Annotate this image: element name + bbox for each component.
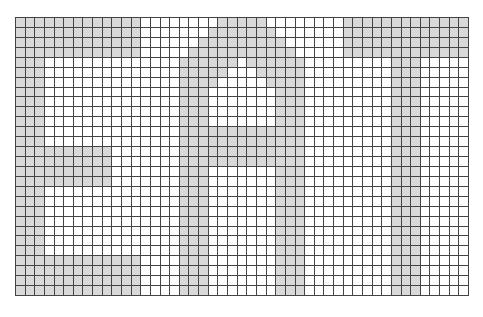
empty-cell (103, 227, 113, 237)
empty-cell (440, 58, 450, 68)
empty-cell (170, 117, 180, 127)
empty-cell (315, 207, 325, 217)
filled-cell-a (247, 48, 257, 58)
empty-cell (112, 117, 122, 127)
empty-cell (382, 217, 392, 227)
empty-cell (247, 177, 257, 187)
empty-cell (257, 97, 267, 107)
filled-cell-e (74, 167, 84, 177)
empty-cell (112, 97, 122, 107)
filled-cell-t (411, 97, 421, 107)
filled-cell-a (276, 217, 286, 227)
empty-cell (170, 88, 180, 98)
filled-cell-t (450, 48, 460, 58)
filled-cell-t (430, 28, 440, 38)
filled-cell-a (189, 286, 199, 296)
filled-cell-a (189, 167, 199, 177)
filled-cell-t (411, 58, 421, 68)
filled-cell-t (411, 217, 421, 227)
filled-cell-a (180, 177, 190, 187)
empty-cell (83, 68, 93, 78)
filled-cell-e (132, 18, 142, 28)
filled-cell-e (55, 28, 65, 38)
empty-cell (421, 127, 431, 137)
filled-cell-t (402, 28, 412, 38)
empty-cell (363, 78, 373, 88)
empty-cell (421, 256, 431, 266)
empty-cell (315, 236, 325, 246)
empty-cell (132, 157, 142, 167)
filled-cell-t (344, 38, 354, 48)
filled-cell-t (402, 157, 412, 167)
empty-cell (373, 236, 383, 246)
empty-cell (170, 68, 180, 78)
filled-cell-e (55, 276, 65, 286)
filled-cell-t (411, 256, 421, 266)
empty-cell (170, 187, 180, 197)
filled-cell-t (402, 58, 412, 68)
empty-cell (64, 137, 74, 147)
empty-cell (170, 107, 180, 117)
filled-cell-e (83, 48, 93, 58)
empty-cell (344, 266, 354, 276)
empty-cell (373, 177, 383, 187)
empty-cell (93, 127, 103, 137)
empty-cell (170, 246, 180, 256)
empty-cell (459, 107, 469, 117)
empty-cell (103, 117, 113, 127)
empty-cell (247, 107, 257, 117)
empty-cell (305, 187, 315, 197)
empty-cell (315, 246, 325, 256)
empty-cell (218, 207, 228, 217)
filled-cell-a (276, 256, 286, 266)
filled-cell-e (83, 18, 93, 28)
empty-cell (122, 177, 132, 187)
empty-cell (151, 137, 161, 147)
empty-cell (324, 88, 334, 98)
empty-cell (334, 207, 344, 217)
empty-cell (141, 107, 151, 117)
empty-cell (45, 217, 55, 227)
empty-cell (315, 18, 325, 28)
filled-cell-t (402, 117, 412, 127)
empty-cell (103, 137, 113, 147)
filled-cell-a (296, 97, 306, 107)
filled-cell-e (103, 28, 113, 38)
empty-cell (450, 58, 460, 68)
filled-cell-a (296, 266, 306, 276)
filled-cell-t (411, 187, 421, 197)
empty-cell (450, 197, 460, 207)
empty-cell (74, 227, 84, 237)
empty-cell (141, 38, 151, 48)
empty-cell (344, 88, 354, 98)
empty-cell (315, 266, 325, 276)
empty-cell (55, 127, 65, 137)
filled-cell-e (55, 266, 65, 276)
filled-cell-t (344, 28, 354, 38)
empty-cell (132, 137, 142, 147)
empty-cell (151, 197, 161, 207)
empty-cell (189, 18, 199, 28)
filled-cell-e (16, 187, 26, 197)
empty-cell (209, 236, 219, 246)
empty-cell (161, 187, 171, 197)
empty-cell (132, 236, 142, 246)
empty-cell (296, 38, 306, 48)
filled-cell-a (276, 68, 286, 78)
empty-cell (363, 217, 373, 227)
empty-cell (459, 78, 469, 88)
filled-cell-a (296, 177, 306, 187)
filled-cell-t (411, 227, 421, 237)
filled-cell-e (35, 147, 45, 157)
filled-cell-t (402, 227, 412, 237)
filled-cell-e (45, 256, 55, 266)
empty-cell (373, 207, 383, 217)
filled-cell-e (122, 28, 132, 38)
empty-cell (353, 207, 363, 217)
empty-cell (440, 147, 450, 157)
empty-cell (334, 286, 344, 296)
filled-cell-a (296, 197, 306, 207)
filled-cell-t (392, 117, 402, 127)
filled-cell-a (199, 177, 209, 187)
empty-cell (161, 246, 171, 256)
